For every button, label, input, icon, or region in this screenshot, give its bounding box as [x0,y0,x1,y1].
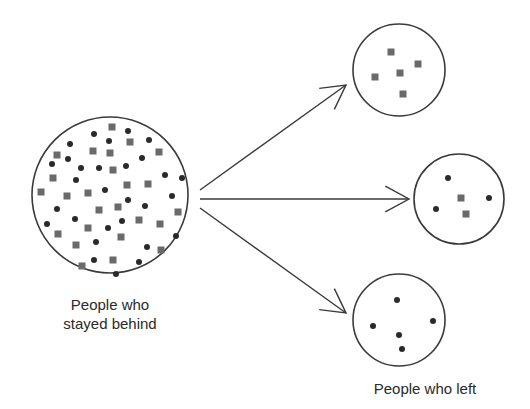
dot-marker [54,206,60,212]
square-marker [115,204,122,211]
square-marker [110,257,117,264]
source-label: People who stayed behind [40,295,180,333]
square-marker [73,242,80,249]
dot-marker [146,137,152,143]
dot-marker [44,221,50,227]
population-split-diagram [0,0,530,409]
dot-marker [144,244,150,250]
dot-marker [49,161,55,167]
square-marker [110,167,117,174]
square-marker [85,225,92,232]
dot-marker [142,203,148,209]
dot-marker [73,177,79,183]
square-marker [463,211,470,218]
dot-marker [106,138,112,144]
dot-marker [169,193,175,199]
dot-marker [370,323,376,329]
dot-marker [162,172,168,178]
population-group [353,274,445,366]
square-marker [136,217,143,224]
square-marker [55,231,62,238]
dot-marker [91,131,97,137]
population-group [32,117,188,277]
dot-marker [399,346,405,352]
square-marker [415,61,422,68]
population-group [414,154,504,244]
dot-marker [139,155,145,161]
square-marker [372,74,379,81]
square-marker [85,190,92,197]
source-label-line2: stayed behind [40,314,180,333]
dot-marker [78,165,84,171]
arrow-to-middle [200,186,409,212]
source-group-stayed-behind [32,117,188,277]
dot-marker [179,175,185,181]
square-marker [107,150,114,157]
arrow-to-top [200,85,346,190]
square-marker [156,149,163,156]
target-groups-left [353,24,504,366]
dot-marker [105,225,111,231]
dot-marker [67,141,73,147]
targets-label: People who left [340,379,510,398]
dot-marker [65,156,71,162]
dot-marker [91,257,97,263]
square-marker [175,209,182,216]
square-marker [109,124,116,131]
square-marker [54,152,61,159]
dot-marker [119,218,125,224]
dot-marker [123,163,129,169]
square-marker [400,91,407,98]
square-marker [118,234,125,241]
dot-marker [394,297,400,303]
square-marker [96,207,103,214]
square-marker [397,70,404,77]
dot-marker [125,197,131,203]
dot-marker [445,175,451,181]
dot-marker [113,271,119,277]
square-marker [158,247,165,254]
dot-marker [96,165,102,171]
square-marker [90,148,97,155]
targets-label-text: People who left [340,379,510,398]
square-marker [127,139,134,146]
population-group [353,24,445,116]
square-marker [157,221,164,228]
dot-marker [433,206,439,212]
dot-marker [72,216,78,222]
dot-marker [136,259,142,265]
arrow-to-bottom [200,208,346,313]
square-marker [145,181,152,188]
source-label-line1: People who [40,295,180,314]
dot-marker [486,195,492,201]
square-marker [124,182,131,189]
arrow-shaft [200,85,346,190]
dot-marker [102,187,108,193]
dot-marker [396,332,402,338]
square-marker [50,175,57,182]
arrow-shaft [200,208,346,313]
square-marker [79,263,86,270]
dot-marker [93,239,99,245]
square-marker [38,189,45,196]
square-marker [64,193,71,200]
dot-marker [125,128,131,134]
dot-marker [173,233,179,239]
square-marker [388,49,395,56]
square-marker [458,195,465,202]
dot-marker [430,318,436,324]
